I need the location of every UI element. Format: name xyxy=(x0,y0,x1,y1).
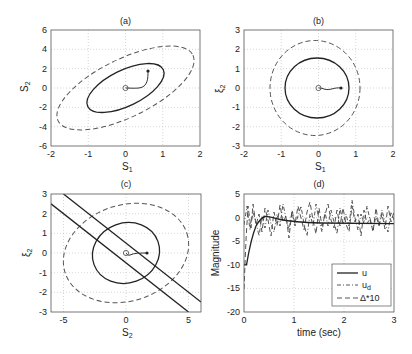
svg-text:2: 2 xyxy=(42,209,47,219)
svg-text:0: 0 xyxy=(316,149,321,159)
legend-delta-label: Δ*10 xyxy=(360,293,380,303)
svg-text:3: 3 xyxy=(235,25,240,35)
svg-text:-4: -4 xyxy=(39,122,47,132)
svg-text:0: 0 xyxy=(235,213,240,223)
svg-text:0: 0 xyxy=(123,149,128,159)
panel-c-lower-boundary-line xyxy=(51,204,189,312)
svg-text:-2: -2 xyxy=(39,102,47,112)
panel-d-legend: u ud Δ*10 xyxy=(332,264,391,306)
svg-text:5: 5 xyxy=(235,189,240,199)
panel-d-title: (d) xyxy=(314,179,325,189)
panel-b-start-marker xyxy=(339,86,342,89)
panel-c-xlabel: S2 xyxy=(122,327,133,339)
panel-d-xlabel: time (sec) xyxy=(297,327,341,338)
svg-text:-1: -1 xyxy=(39,268,47,278)
svg-text:-2: -2 xyxy=(240,149,248,159)
svg-text:-10: -10 xyxy=(227,260,240,270)
legend-u-label: u xyxy=(362,268,367,278)
svg-text:-1: -1 xyxy=(84,149,92,159)
svg-text:1: 1 xyxy=(291,315,296,325)
panel-a-yticks: -6 -4 -2 0 2 4 6 xyxy=(39,25,47,151)
panel-a-trajectory xyxy=(126,71,149,88)
svg-text:-2: -2 xyxy=(232,122,240,132)
svg-text:-2: -2 xyxy=(39,287,47,297)
panel-d-yticks: -20 -15 -10 -5 0 5 xyxy=(227,189,240,317)
svg-text:-5: -5 xyxy=(232,236,240,246)
svg-text:-2: -2 xyxy=(47,149,55,159)
svg-text:0: 0 xyxy=(123,315,128,325)
svg-text:0: 0 xyxy=(241,315,246,325)
panel-c-trajectory xyxy=(126,253,147,255)
panel-a-ylabel: S2 xyxy=(19,81,31,92)
panel-c: (c) -5 0 5 -3 -2 -1 xyxy=(21,179,202,339)
svg-text:-1: -1 xyxy=(277,149,285,159)
svg-text:2: 2 xyxy=(42,64,47,74)
svg-text:3: 3 xyxy=(42,189,47,199)
panel-b-xlabel: S1 xyxy=(315,161,326,173)
figure: (a) -2 -1 0 1 2 -6 -4 xyxy=(0,0,412,354)
panel-a: (a) -2 -1 0 1 2 -6 -4 xyxy=(19,16,206,173)
panel-b-ylabel: ξ2 xyxy=(214,85,226,93)
svg-text:3: 3 xyxy=(391,315,396,325)
svg-text:1: 1 xyxy=(235,64,240,74)
panel-b: (b) -2 -1 0 1 2 -3 -2 -1 0 1 xyxy=(214,16,396,173)
svg-text:2: 2 xyxy=(390,149,395,159)
svg-text:2: 2 xyxy=(235,44,240,54)
svg-text:-20: -20 xyxy=(227,307,240,317)
panel-c-xticks: -5 0 5 xyxy=(59,315,191,325)
panel-c-title: (c) xyxy=(121,179,132,189)
panel-a-start-marker xyxy=(146,69,149,72)
svg-text:-15: -15 xyxy=(227,283,240,293)
panel-c-yticks: -3 -2 -1 0 1 2 3 xyxy=(39,189,47,317)
panel-b-xticks: -2 -1 0 1 2 xyxy=(240,149,396,159)
panel-b-title: (b) xyxy=(313,16,324,26)
svg-text:-3: -3 xyxy=(232,141,240,151)
svg-text:-5: -5 xyxy=(59,315,67,325)
panel-d-xticks: 0 1 2 3 xyxy=(241,315,396,325)
svg-text:-6: -6 xyxy=(39,141,47,151)
panel-a-xticks: -2 -1 0 1 2 xyxy=(47,149,203,159)
panel-d: (d) u ud Δ*10 xyxy=(210,179,397,338)
svg-text:2: 2 xyxy=(341,315,346,325)
svg-text:-1: -1 xyxy=(232,102,240,112)
svg-text:0: 0 xyxy=(42,248,47,258)
panel-a-title: (a) xyxy=(120,16,131,26)
svg-text:0: 0 xyxy=(42,83,47,93)
panel-b-trajectory xyxy=(319,88,342,90)
svg-text:1: 1 xyxy=(353,149,358,159)
svg-text:5: 5 xyxy=(186,315,191,325)
panel-b-yticks: -3 -2 -1 0 1 2 3 xyxy=(232,25,240,151)
svg-text:1: 1 xyxy=(160,149,165,159)
svg-text:-3: -3 xyxy=(39,307,47,317)
panel-c-upper-boundary-line xyxy=(64,194,202,302)
svg-text:1: 1 xyxy=(42,228,47,238)
panel-a-xlabel: S1 xyxy=(122,161,133,173)
svg-text:2: 2 xyxy=(197,149,202,159)
panel-c-start-marker xyxy=(145,251,148,254)
panel-c-ylabel: ξ2 xyxy=(21,249,33,257)
svg-text:6: 6 xyxy=(42,25,47,35)
svg-text:4: 4 xyxy=(42,44,47,54)
svg-text:0: 0 xyxy=(235,83,240,93)
panel-d-ylabel: Magnitude xyxy=(210,229,221,276)
panel-d-ud-series xyxy=(244,200,394,236)
panel-d-u-series xyxy=(244,216,394,264)
